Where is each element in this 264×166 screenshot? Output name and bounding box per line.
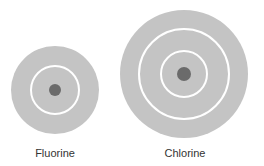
chlorine-nucleus xyxy=(177,67,191,81)
atom-diagram xyxy=(0,0,264,166)
fluorine-nucleus xyxy=(49,84,61,96)
fluorine-label: Fluorine xyxy=(15,147,95,159)
fluorine-atom xyxy=(11,46,99,134)
chlorine-label: Chlorine xyxy=(145,147,225,159)
chlorine-atom xyxy=(120,10,248,138)
